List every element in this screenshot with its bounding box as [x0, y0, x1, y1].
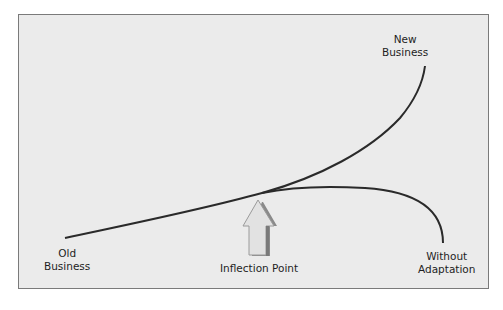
decline-curve	[262, 187, 443, 243]
inflection-point-label: Inflection Point	[220, 262, 298, 275]
without-adaptation-line-1: Without	[418, 250, 475, 263]
inflection-point-text: Inflection Point	[220, 262, 298, 275]
new-business-line-2: Business	[382, 46, 428, 59]
growth-curve	[65, 66, 425, 238]
old-business-line-2: Business	[44, 260, 90, 273]
new-business-label: New Business	[382, 33, 428, 59]
new-business-line-1: New	[382, 33, 428, 46]
inflection-arrow-icon	[243, 200, 277, 256]
old-business-line-1: Old	[44, 247, 90, 260]
without-adaptation-label: Without Adaptation	[418, 250, 475, 276]
old-business-label: Old Business	[44, 247, 90, 273]
without-adaptation-line-2: Adaptation	[418, 263, 475, 276]
